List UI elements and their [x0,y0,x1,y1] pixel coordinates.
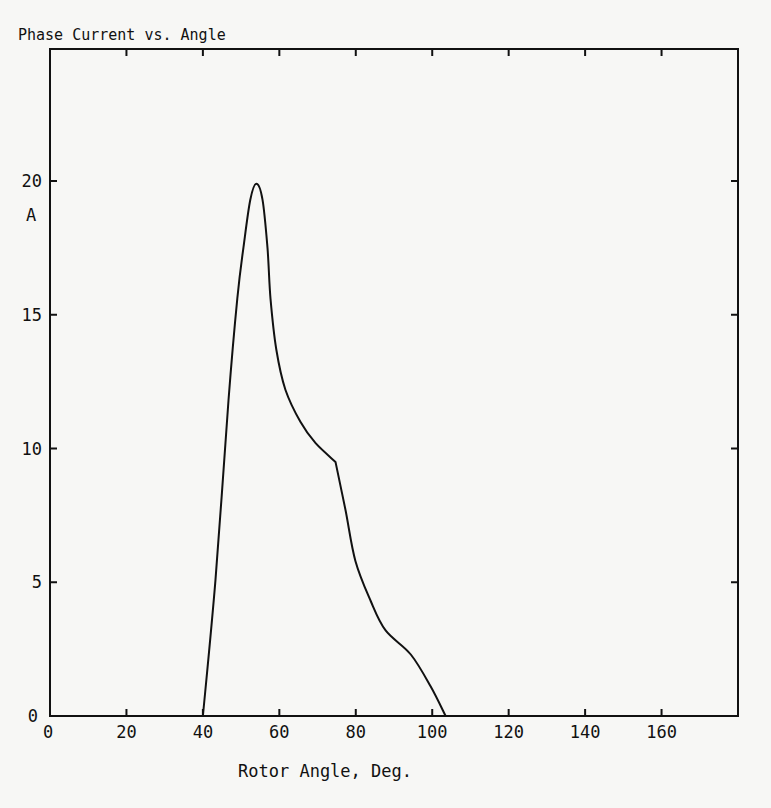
chart: Phase Current vs. Angle 0204060801001201… [0,0,771,808]
y-axis-label: A [26,205,36,225]
y-tick-label: 20 [22,171,42,191]
x-tick-label: 80 [346,722,366,742]
y-tick-label: 0 [28,706,38,726]
x-axis-label: Rotor Angle, Deg. [238,761,412,781]
y-tick-label: 5 [32,572,42,592]
phase-current-line [203,184,446,716]
plot-frame [50,49,738,716]
x-tick-label: 40 [193,722,213,742]
chart-title: Phase Current vs. Angle [18,26,226,44]
x-tick-label: 0 [43,722,53,742]
y-tick-label: 15 [22,305,42,325]
x-axis: 020406080100120140160 [43,49,677,742]
x-tick-label: 120 [493,722,524,742]
x-tick-label: 140 [570,722,601,742]
y-tick-label: 10 [22,439,42,459]
y-axis: 05101520 [22,171,738,726]
x-tick-label: 160 [646,722,677,742]
x-tick-label: 100 [417,722,448,742]
x-tick-label: 60 [269,722,289,742]
x-tick-label: 20 [116,722,136,742]
